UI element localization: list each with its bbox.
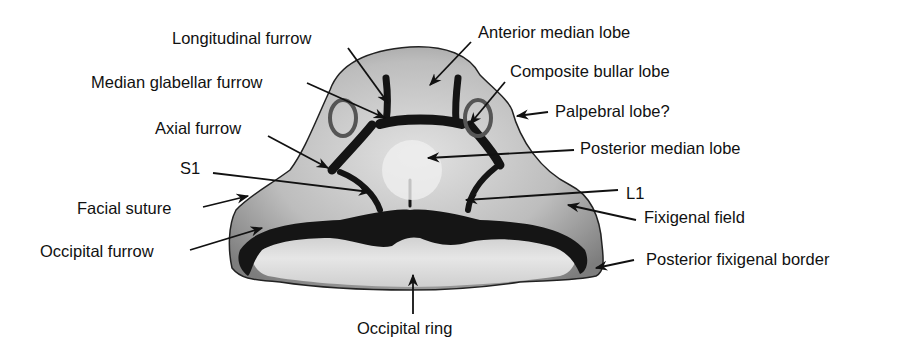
arrow-palpebral-lobe xyxy=(517,112,548,116)
label-axial-furrow: Axial furrow xyxy=(155,120,241,137)
label-fixigenal-field: Fixigenal field xyxy=(644,209,745,226)
label-facial-suture: Facial suture xyxy=(77,200,171,217)
specimen-illustration xyxy=(0,0,898,356)
label-s1: S1 xyxy=(180,160,200,177)
label-occipital-furrow: Occipital furrow xyxy=(40,243,154,260)
label-l1: L1 xyxy=(626,185,644,202)
label-posterior-median-lobe: Posterior median lobe xyxy=(580,140,741,157)
label-anterior-median-lobe: Anterior median lobe xyxy=(478,24,630,41)
cranidium-figure: Longitudinal furrowAnterior median lobeM… xyxy=(0,0,898,356)
label-palpebral-lobe: Palpebral lobe? xyxy=(555,103,670,120)
posterior-median-lobe-shape xyxy=(382,140,442,200)
label-posterior-fixigenal-border: Posterior fixigenal border xyxy=(646,251,829,268)
label-occipital-ring: Occipital ring xyxy=(357,320,452,337)
label-median-glabellar-furrow: Median glabellar furrow xyxy=(91,74,263,91)
label-composite-bullar-lobe: Composite bullar lobe xyxy=(510,63,670,80)
label-longitudinal-furrow: Longitudinal furrow xyxy=(172,30,311,47)
